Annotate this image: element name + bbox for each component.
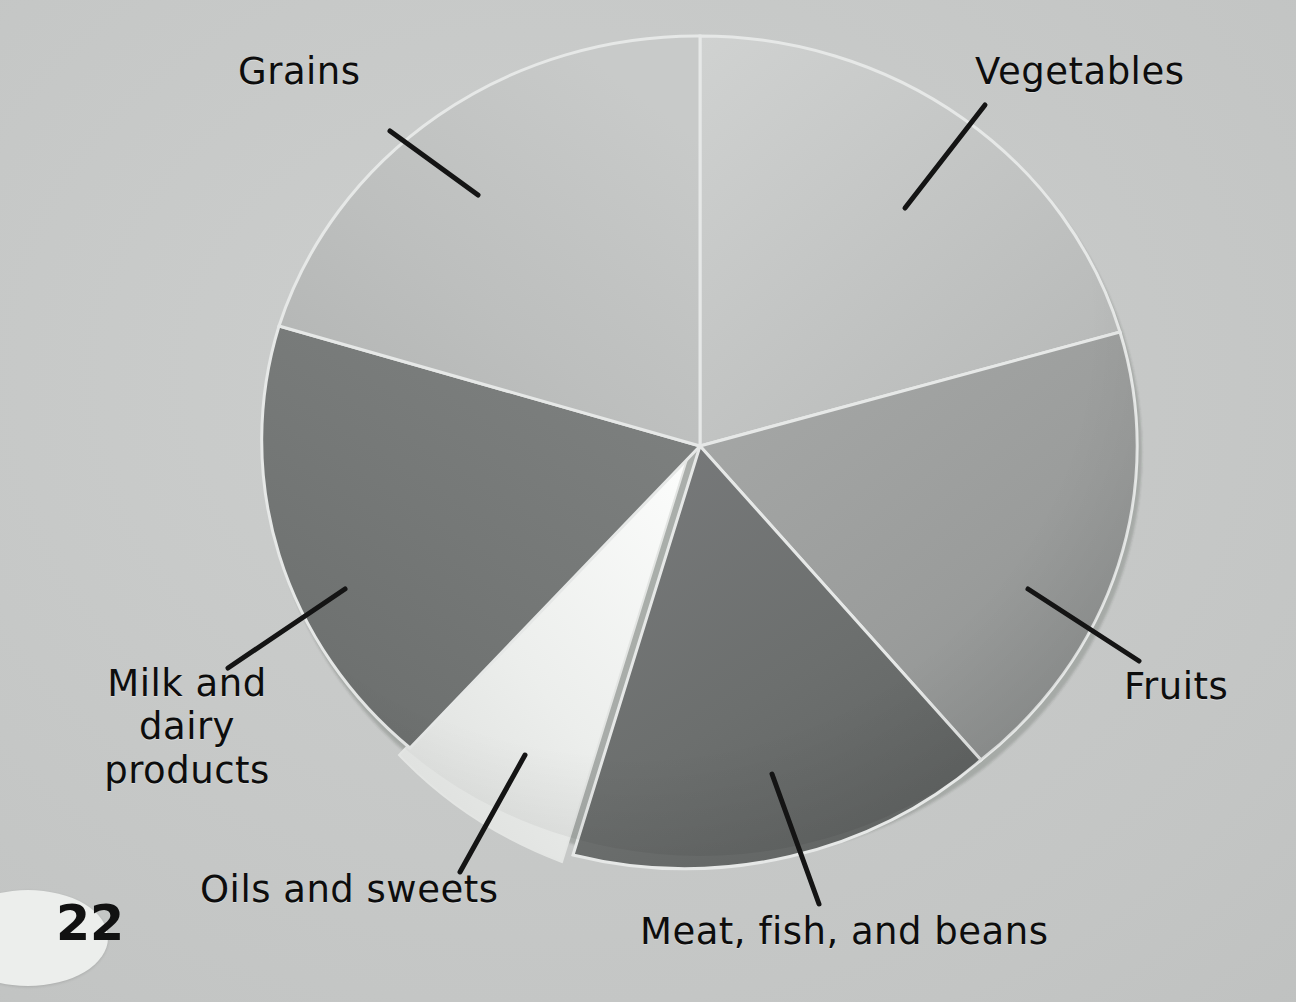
slice-label-milk-dairy: Milk and dairy products bbox=[84, 662, 290, 792]
slice-label-meat-fish-beans: Meat, fish, and beans bbox=[640, 910, 1048, 953]
slice-label-fruits: Fruits bbox=[1124, 665, 1228, 708]
page-canvas: Grains Vegetables Fruits Milk and dairy … bbox=[0, 0, 1296, 1002]
slice-label-oils-sweets: Oils and sweets bbox=[200, 868, 498, 911]
pie-chart: Grains Vegetables Fruits Milk and dairy … bbox=[0, 0, 1296, 1002]
slice-label-grains: Grains bbox=[238, 50, 361, 93]
pie-chart-svg bbox=[0, 0, 1296, 1002]
slice-label-vegetables: Vegetables bbox=[975, 50, 1184, 93]
page-number: 22 bbox=[56, 895, 124, 952]
